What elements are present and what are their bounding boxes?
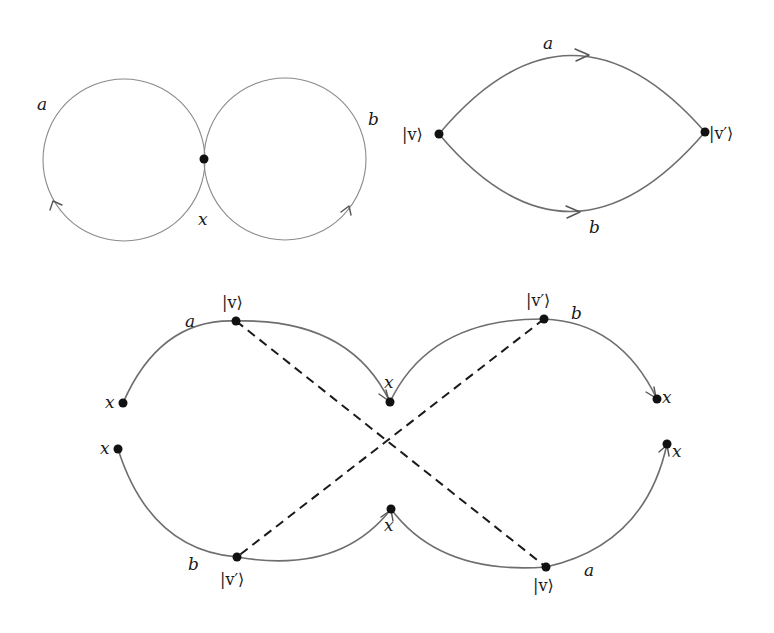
vertex-x [114, 445, 123, 454]
arc-b-top-right-2 [544, 319, 657, 399]
vertex-v [542, 563, 551, 572]
endpoint-x-label: x [105, 392, 115, 412]
arrow-icon [50, 201, 62, 210]
loop-a [43, 79, 205, 241]
vertex-v-prime-label: |v′⟩ [220, 570, 244, 589]
arc-label-b: b [571, 303, 582, 323]
arc-a-bottom-right [391, 509, 546, 568]
loop-b [204, 78, 366, 240]
endpoint-x-label: x [100, 438, 110, 458]
arc-b-top-right [390, 319, 544, 402]
edge-a [439, 55, 705, 134]
loop-a-label: a [37, 94, 47, 114]
arc-b-bottom-left-2 [237, 509, 391, 561]
vertex-x [387, 505, 396, 514]
endpoint-x-label: x [384, 372, 394, 392]
loop-b-label: b [368, 109, 379, 129]
vertex-v-label: |v⟩ [222, 293, 243, 312]
edge-b [439, 132, 705, 212]
vertex-v-prime-label: |v′⟩ [526, 291, 550, 310]
diagram-canvas: a b x a b |v⟩ |v′⟩ [0, 0, 774, 633]
arc-a-top-left-2 [236, 321, 390, 402]
arrow-icon [341, 206, 351, 215]
arc-label-b: b [188, 554, 199, 574]
vertex-x [200, 155, 209, 164]
vertex-v-label: |v⟩ [402, 125, 423, 144]
lens-graph: a b |v⟩ |v′⟩ [402, 33, 733, 237]
covering-graph: a |v⟩ b |v′⟩ b |v′⟩ a |v⟩ x x x x x x [100, 291, 682, 595]
vertex-v-label: |v⟩ [533, 576, 554, 595]
vertex-v [435, 130, 444, 139]
vertex-v-prime-label: |v′⟩ [709, 124, 733, 143]
vertex-v [232, 317, 241, 326]
vertex-x [119, 399, 128, 408]
arc-a-bottom-right-2 [546, 444, 667, 567]
vertex-v-prime [540, 315, 549, 324]
edge-b-label: b [589, 217, 600, 237]
arc-label-a: a [185, 311, 195, 331]
arc-a-top-left [123, 321, 236, 403]
vertex-x [386, 398, 395, 407]
vertex-x [653, 395, 662, 404]
figure-eight-graph: a b x [37, 78, 379, 241]
edge-a-label: a [543, 33, 553, 53]
endpoint-x-label: x [672, 441, 682, 461]
arc-label-a: a [584, 560, 594, 580]
endpoint-x-label: x [662, 387, 672, 407]
arc-b-bottom-left [118, 449, 237, 557]
vertex-x [663, 440, 672, 449]
endpoint-x-label: x [384, 515, 394, 535]
vertex-x-label: x [198, 209, 208, 229]
vertex-v-prime [233, 553, 242, 562]
